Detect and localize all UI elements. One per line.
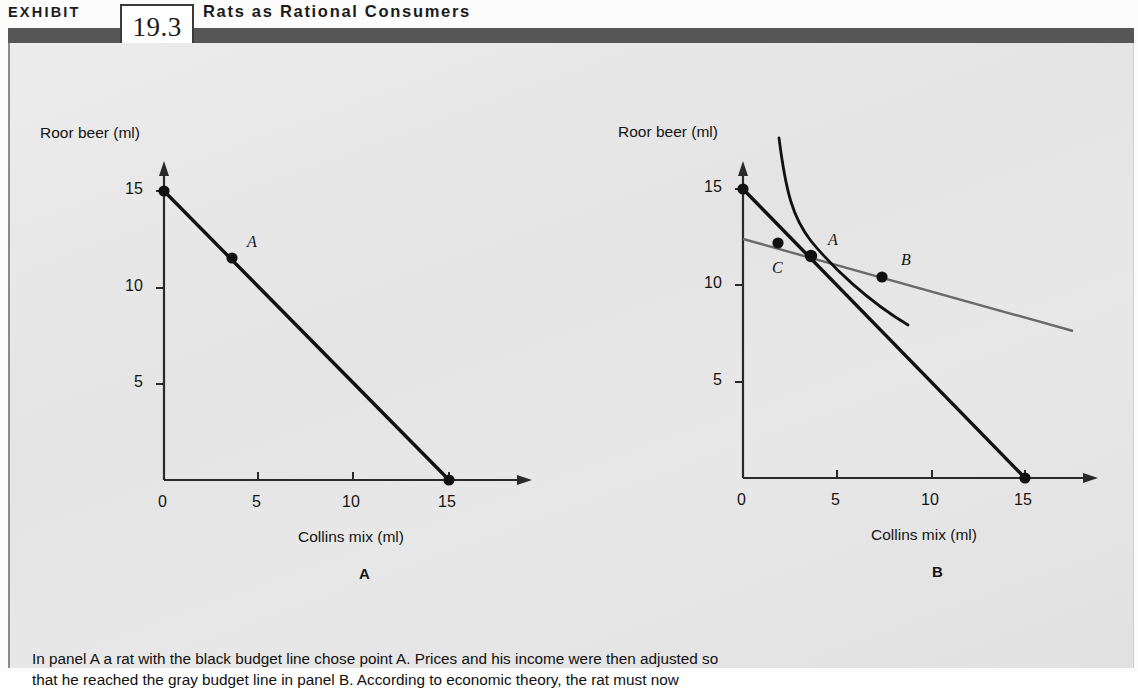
y-ticklabel-15-a: 15 [125,180,143,198]
point-a-b [805,250,817,262]
black-budget-line-b [743,189,1025,478]
y-ticklabel-10-b: 10 [704,274,722,292]
y-axis-arrow-b [738,161,748,176]
y-ticklabel-5-b: 5 [713,371,722,389]
point-c-b [772,237,783,248]
point-label-a-a: A [247,233,257,251]
exhibit-number: 19.3 [132,14,181,41]
exhibit-title: Rats as Rational Consumers [203,2,471,21]
point-label-c-b: C [772,259,783,277]
x-axis-arrow-a [517,475,532,485]
panel-letter-b: B [932,563,943,580]
y-axis-label-a: Roor beer (ml) [40,124,140,142]
point-b-b [876,271,887,282]
x-ticklabel-0-a: 0 [158,493,167,511]
x-ticklabel-5-a: 5 [252,493,261,511]
panel-letter-a: A [359,565,370,582]
x-ticklabel-0-b: 0 [737,491,746,509]
x-ticklabel-10-b: 10 [921,491,939,509]
exhibit-label: EXHIBIT [8,4,81,20]
chart-panel-a: Roor beer (ml) 15 10 5 0 5 10 15 A Colli… [10,43,570,603]
caption-line-1: In panel A a rat with the black budget l… [32,648,1102,669]
point-a-a [226,252,237,263]
x-ticklabel-15-b: 15 [1014,491,1032,509]
x-axis-arrow-b [1083,473,1098,483]
point-intercept-x-b [1019,472,1030,483]
exhibit-caption: In panel A a rat with the black budget l… [32,648,1102,690]
indifference-curve-b [779,138,908,325]
y-axis-label-b: Roor beer (ml) [618,123,718,141]
black-budget-line-a [164,191,449,480]
y-ticklabel-10-a: 10 [125,277,143,295]
chart-panel-b: Roor beer (ml) 15 10 5 0 5 10 15 A C B C… [588,43,1134,603]
x-axis-label-b: Collins mix (ml) [871,526,977,544]
point-intercept-x-a [443,474,454,485]
x-ticklabel-5-b: 5 [831,491,840,509]
point-label-b-b: B [901,251,911,269]
caption-line-2: that he reached the gray budget line in … [32,669,1102,690]
point-intercept-y-b [737,183,748,194]
y-ticklabel-5-a: 5 [134,373,143,391]
y-ticklabel-15-b: 15 [704,178,722,196]
figure-panel: Roor beer (ml) 15 10 5 0 5 10 15 A Colli… [8,43,1134,668]
point-label-a-b: A [828,231,838,249]
point-intercept-y-a [158,185,169,196]
x-ticklabel-15-a: 15 [438,493,456,511]
x-ticklabel-10-a: 10 [342,493,360,511]
x-axis-label-a: Collins mix (ml) [298,528,404,546]
y-axis-arrow-a [159,161,169,176]
